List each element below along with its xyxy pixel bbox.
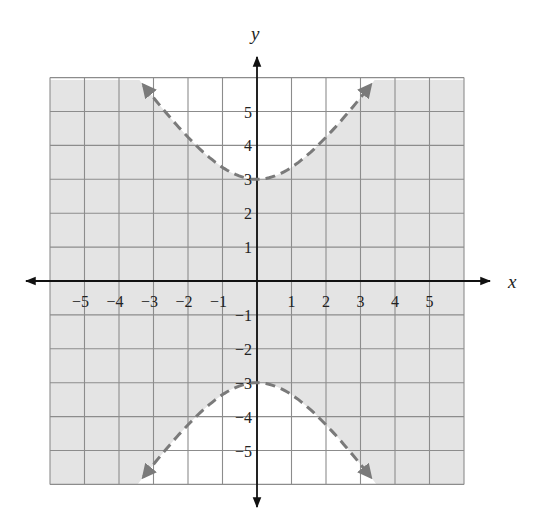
y-tick-label: 4 (244, 137, 252, 154)
y-tick-label: 2 (244, 205, 252, 222)
y-tick-label: −1 (235, 307, 252, 324)
x-tick-label: 2 (322, 293, 330, 310)
y-tick-label: 5 (244, 104, 252, 121)
x-tick-label: 1 (288, 293, 296, 310)
x-tick-label: 4 (391, 293, 399, 310)
x-tick-label: −5 (72, 293, 89, 310)
y-tick-label: −2 (235, 341, 252, 358)
y-axis-label: y (249, 23, 260, 44)
y-tick-label: 3 (244, 171, 252, 188)
x-tick-label: −2 (175, 293, 192, 310)
y-tick-label: 1 (244, 239, 252, 256)
y-tick-label: −3 (235, 375, 252, 392)
x-tick-label: −4 (106, 293, 123, 310)
y-tick-label: −4 (235, 409, 252, 426)
y-tick-label: −5 (235, 443, 252, 460)
x-axis-label: x (507, 271, 517, 292)
x-tick-label: 3 (357, 293, 365, 310)
x-tick-label: −3 (141, 293, 158, 310)
x-tick-label: 5 (426, 293, 434, 310)
hyperbola-inequality-chart: −5−4−3−2−11234554321−1−2−3−4−5 x y (0, 0, 538, 531)
x-tick-label: −1 (210, 293, 227, 310)
